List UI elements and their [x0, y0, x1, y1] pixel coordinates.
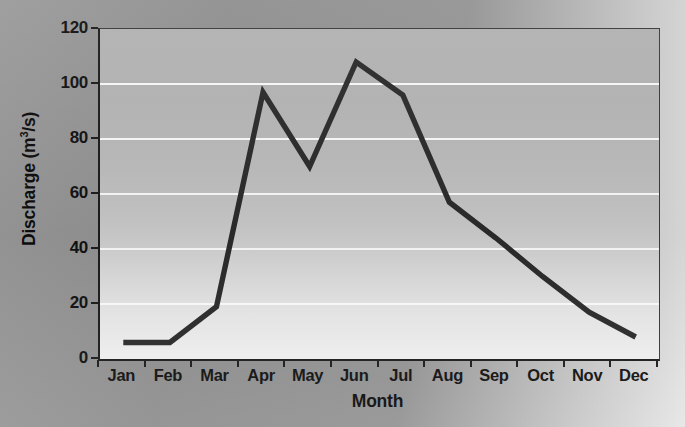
y-axis-tick [91, 82, 98, 84]
y-axis-tick-label: 100 [0, 73, 100, 93]
x-axis-tick-label-dec: Dec [604, 366, 664, 385]
y-axis-title-tail: /s) [19, 112, 39, 132]
y-axis-tick-labels: 020406080100120 [0, 0, 88, 427]
x-axis-title: Month [98, 391, 657, 412]
y-axis-title-exponent: 3 [18, 132, 30, 138]
y-axis-title: Discharge (m3/s) [18, 39, 40, 319]
chart-figure: 020406080100120 Discharge (m3/s) JanFebM… [0, 0, 685, 427]
y-axis-tick [91, 302, 98, 304]
y-axis-tick-label: 60 [0, 183, 100, 203]
y-axis-tick [91, 192, 98, 194]
y-axis-tick [91, 27, 98, 29]
y-axis-tick [91, 247, 98, 249]
y-axis-tick [91, 357, 98, 359]
y-axis-tick-label: 40 [0, 238, 100, 258]
y-axis-title-main: Discharge (m [19, 138, 39, 246]
y-axis-tick-label: 120 [0, 18, 100, 38]
discharge-line [123, 62, 635, 343]
y-axis-tick-label: 80 [0, 128, 100, 148]
plot-area [98, 28, 660, 361]
y-axis-tick-label: 0 [0, 348, 100, 368]
y-axis-tick-label: 20 [0, 293, 100, 313]
series-line-chart [100, 29, 659, 359]
y-axis-tick [91, 137, 98, 139]
